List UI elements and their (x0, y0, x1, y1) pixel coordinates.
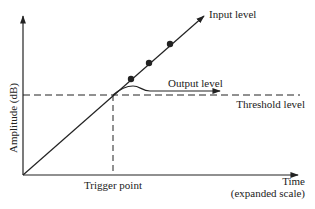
time-label: Time (282, 175, 305, 187)
input-marker-dot (146, 60, 152, 66)
amplitude-time-diagram: Input level Output level Threshold level… (0, 0, 315, 209)
y-axis-label: Amplitude (dB) (7, 83, 20, 153)
input-marker-dot (167, 41, 173, 47)
input-marker-dot (128, 76, 134, 82)
threshold-level-label: Threshold level (236, 98, 305, 110)
output-level-label: Output level (168, 77, 223, 89)
time-scale-label: (expanded scale) (231, 187, 306, 200)
trigger-point-label: Trigger point (84, 179, 142, 191)
input-level-label: Input level (209, 8, 256, 20)
